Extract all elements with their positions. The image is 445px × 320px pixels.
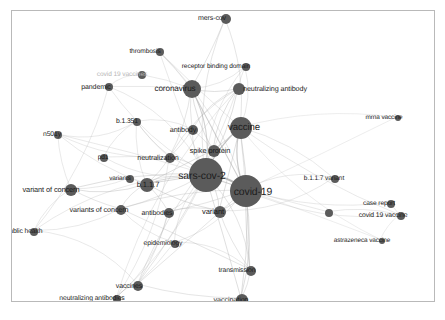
- node-label-variants[interactable]: variants: [109, 176, 131, 182]
- node-label-mrna-vaccine[interactable]: mrna vaccine: [366, 115, 403, 121]
- node-label-vaccines[interactable]: vaccines: [116, 283, 142, 290]
- node-label-astrazeneca-vaccine[interactable]: astrazeneca vaccine: [334, 238, 390, 244]
- node-label-b-1-1-7[interactable]: b.1.1.7: [137, 181, 160, 189]
- node-label-variant-of-concern[interactable]: variant of concern: [23, 186, 80, 193]
- node-label-mers-cov[interactable]: mers-cov: [198, 15, 226, 22]
- node-label-epidemiology[interactable]: epidemiology: [144, 241, 183, 248]
- node-label-covid-19-vaccine[interactable]: covid 19 vaccine: [359, 213, 408, 220]
- node-label-b-1-1-7-variant[interactable]: b.1.1.7 variant: [304, 176, 344, 183]
- node-label-neutralizing-antibody[interactable]: neutralizing antibody: [243, 85, 307, 92]
- node-label-neutralizing-antibodies[interactable]: neutralizing antibodies: [59, 296, 124, 302]
- network-canvas[interactable]: mers-covthrombosisreceptor binding domai…: [11, 10, 435, 302]
- graph-node-unlabeled-node-right[interactable]: [325, 209, 333, 217]
- visualization-root: mers-covthrombosisreceptor binding domai…: [0, 0, 445, 320]
- node-label-sars-cov-2[interactable]: sars-cov-2: [178, 172, 226, 182]
- node-label-spike-protein[interactable]: spike protein: [190, 147, 231, 154]
- node-label-vaccination[interactable]: vaccination: [214, 296, 249, 302]
- node-label-thrombosis[interactable]: thrombosis: [129, 49, 160, 56]
- node-label-neutralization[interactable]: neutralization: [137, 154, 178, 161]
- node-label-b-1-351[interactable]: b.1.351: [116, 119, 138, 126]
- node-label-n501y[interactable]: n501y: [43, 132, 61, 139]
- node-layer: mers-covthrombosisreceptor binding domai…: [12, 11, 434, 301]
- node-label-vaccine[interactable]: vaccine: [228, 123, 260, 133]
- node-label-covid-19-vaccines[interactable]: covid 19 vaccines: [97, 72, 147, 79]
- canvas-bottom-strip: [11, 303, 435, 313]
- node-label-covid-19[interactable]: covid-19: [234, 188, 272, 198]
- node-label-case-report[interactable]: case report: [363, 201, 395, 208]
- node-label-variant[interactable]: variant: [202, 208, 224, 216]
- node-label-pandemic[interactable]: pandemic: [81, 84, 111, 91]
- node-label-antibody[interactable]: antibody: [170, 126, 196, 133]
- node-label-pd1[interactable]: pd1: [98, 155, 109, 162]
- node-label-public-health[interactable]: public health: [11, 229, 42, 236]
- node-label-transmission[interactable]: transmission: [219, 268, 256, 275]
- node-label-variants-of-concern[interactable]: variants of concern: [70, 206, 129, 213]
- node-label-coronavirus[interactable]: coronavirus: [154, 85, 195, 93]
- node-label-receptor-binding-domain[interactable]: receptor binding domain: [182, 64, 250, 71]
- node-label-antibodies[interactable]: antibodies: [142, 210, 173, 217]
